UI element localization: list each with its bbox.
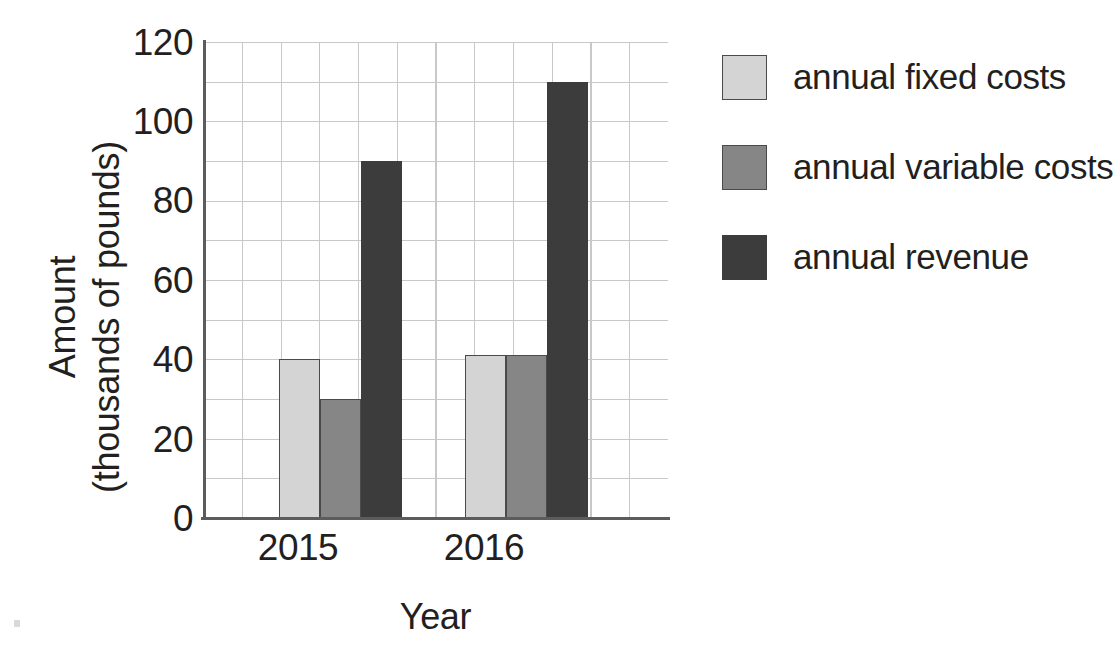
legend-item-annual-fixed-costs: annual fixed costs <box>722 46 1102 108</box>
legend-swatch-icon-annual-fixed-costs <box>722 55 767 100</box>
y-axis-label-line2: (thousands of pounds) <box>85 127 129 507</box>
y-axis-line <box>203 40 206 520</box>
bar-2015-annual-variable-costs <box>320 399 361 518</box>
x-tick-2016: 2016 <box>404 528 564 568</box>
x-axis-label: Year <box>203 597 668 637</box>
bar-2015-annual-fixed-costs <box>279 359 320 518</box>
x-tick-2015: 2015 <box>218 528 378 568</box>
legend-swatch-icon-annual-variable-costs <box>722 145 767 190</box>
legend-item-annual-revenue: annual revenue <box>722 226 1102 288</box>
legend-swatch-icon-annual-revenue <box>722 235 767 280</box>
chart-legend: annual fixed costs annual variable costs… <box>722 46 1102 316</box>
scan-artifact-speck <box>14 620 20 627</box>
x-axis-line <box>201 517 670 520</box>
bar-chart-figure: 120 100 80 60 40 20 0 Amount (thousands … <box>0 0 1117 654</box>
bar-2015-annual-revenue <box>361 161 402 518</box>
legend-label-annual-variable-costs: annual variable costs <box>793 147 1113 187</box>
y-tick-120: 120 <box>13 24 193 61</box>
legend-label-annual-fixed-costs: annual fixed costs <box>793 57 1066 97</box>
bar-2016-annual-variable-costs <box>506 355 547 518</box>
legend-label-annual-revenue: annual revenue <box>793 237 1029 277</box>
grid-lines <box>203 42 668 518</box>
y-axis-label: Amount (thousands of pounds) <box>41 127 129 507</box>
bar-2016-annual-revenue <box>547 82 588 518</box>
bar-2016-annual-fixed-costs <box>465 355 506 518</box>
y-axis-label-line1: Amount <box>41 127 85 507</box>
legend-item-annual-variable-costs: annual variable costs <box>722 136 1102 198</box>
plot-area <box>203 42 668 518</box>
